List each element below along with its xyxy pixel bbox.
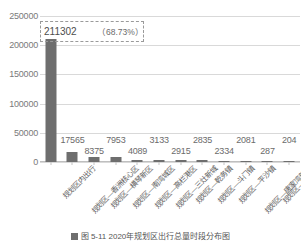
- bar-value-label: 7953: [106, 136, 125, 145]
- legend-swatch-icon: [71, 233, 78, 240]
- bar-value-label: 204: [282, 136, 296, 145]
- bar-value-label: 8375: [85, 147, 104, 156]
- caption-text: 图 5-11 2020年规划区出行总量时段分布图: [81, 232, 231, 241]
- bar-value-label: 4089: [128, 147, 147, 156]
- bar-value-label: 17565: [60, 136, 84, 145]
- bar-slot: [257, 16, 279, 162]
- figure-caption: 图 5-11 2020年规划区出行总量时段分布图: [0, 232, 301, 242]
- x-axis-category-label: 规划区内出行: [62, 165, 97, 200]
- y-axis-tick-label: 150000: [0, 70, 38, 79]
- y-axis-tick-label: 0: [0, 158, 38, 167]
- bar-slot: [213, 16, 235, 162]
- bar[interactable]: [67, 152, 78, 162]
- y-axis-tick-label: 250000: [0, 12, 38, 21]
- x-axis-category-labels: 规划区内出行规划区—香洲核心区规划区—横琴新区规划区—南湾城区规划区—高栏港区规…: [40, 162, 300, 224]
- bar[interactable]: [45, 39, 56, 162]
- bar-value-label: 2334: [215, 147, 234, 156]
- bar-value-label: 2081: [236, 136, 255, 145]
- callout-value-text: 211302: [44, 27, 77, 37]
- bar-value-label: 3133: [150, 136, 169, 145]
- y-axis-tick-label: 100000: [0, 100, 38, 109]
- bar-value-label: 2915: [171, 147, 190, 156]
- bar-value-label: 2835: [193, 136, 212, 145]
- y-axis-tick-label: 50000: [0, 129, 38, 138]
- highlight-callout-box: 211302 （68.73%）: [40, 21, 144, 42]
- y-axis-tick-label: 200000: [0, 41, 38, 50]
- chart-figure: 050000100000150000200000250000 175658375…: [0, 0, 301, 242]
- bar-slot: [170, 16, 192, 162]
- bar-value-label: 287: [260, 147, 274, 156]
- callout-percent-text: （68.73%）: [97, 28, 144, 37]
